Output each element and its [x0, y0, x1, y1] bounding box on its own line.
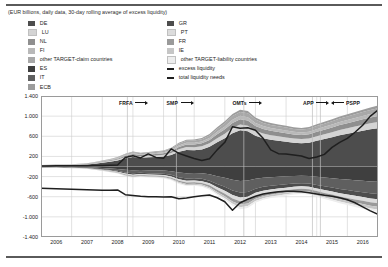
legend-swatch-total-liquidity-needs-icon	[167, 77, 174, 79]
chart-figure: (EUR billions, daily data, 30-day rollin…	[0, 0, 388, 267]
arrow-shaft	[181, 102, 191, 103]
legend-item: other TARGET-liability countries	[167, 55, 357, 64]
legend-swatch-de-icon	[28, 21, 35, 27]
arrow-right-icon	[316, 101, 329, 105]
legend-item: total liquidity needs	[167, 74, 357, 83]
legend-label: ES	[40, 66, 47, 71]
legend-item: other TARGET-claim countries	[28, 55, 178, 64]
annotation-label: SMP	[167, 100, 178, 106]
top-rule	[6, 4, 382, 6]
legend-item: GR	[167, 19, 357, 28]
y-axis-tick-label: 1.000	[1, 113, 38, 119]
legend-item: PT	[167, 28, 357, 37]
arrow-shaft	[135, 102, 145, 103]
annotation-label: APP	[303, 100, 314, 106]
arrow-head	[331, 101, 334, 105]
legend-item: FI	[28, 46, 178, 55]
annotation-pspp: PSPP	[331, 97, 361, 108]
legend-swatch-ecb-icon	[28, 84, 35, 90]
legend-swatch-fr-icon	[167, 39, 174, 45]
x-axis-tick-label: 2008	[112, 239, 124, 245]
arrow-shaft	[333, 102, 343, 103]
x-axis-tick-label: 2016	[357, 239, 369, 245]
legend-column-left: DELUNLFIother TARGET-claim countriesESIT…	[28, 19, 178, 92]
arrow-head	[326, 101, 329, 105]
legend-swatch-other-claim-icon	[28, 57, 35, 63]
legend-item: IE	[167, 46, 357, 55]
legend-label: other TARGET-liability countries	[181, 57, 257, 62]
x-axis-tick-label: 2015	[326, 239, 338, 245]
legend-label: IT	[40, 75, 45, 80]
legend-swatch-excess-liquidity-icon	[167, 68, 174, 70]
legend-label: other TARGET-claim countries	[40, 57, 113, 62]
arrow-right-icon	[249, 101, 262, 105]
legend-column-right: GRPTFRIEother TARGET-liability countries…	[167, 19, 357, 83]
legend-item: excess liquidity	[167, 64, 357, 73]
x-axis-tick-label: 2006	[50, 239, 62, 245]
legend-label: FI	[40, 48, 45, 53]
annotation-label: PSPP	[346, 100, 360, 106]
legend-label: NL	[40, 39, 47, 44]
y-axis-tick-label: -600	[1, 194, 38, 200]
chart-legend: DELUNLFIother TARGET-claim countriesESIT…	[28, 19, 358, 91]
legend-swatch-pt-icon	[167, 29, 176, 37]
legend-swatch-other-liability-icon	[167, 56, 176, 64]
annotation-omts: OMTs	[232, 97, 262, 108]
arrow-shaft	[316, 102, 326, 103]
bottom-rule	[6, 256, 382, 258]
legend-label: LU	[42, 30, 49, 35]
y-axis-tick-label: -200	[1, 174, 38, 180]
legend-label: GR	[179, 21, 187, 26]
chart-canvas	[41, 96, 378, 237]
x-axis-tick-label: 2010	[173, 239, 185, 245]
legend-label: total liquidity needs	[179, 75, 225, 80]
annotation-app: APP	[303, 97, 329, 108]
legend-label: PT	[181, 30, 188, 35]
annotation-frfa: FRFA	[119, 97, 148, 108]
arrow-right-icon	[135, 101, 148, 105]
x-axis-labels: 2006200720082009201020112012201320142015…	[41, 239, 378, 251]
legend-label: DE	[40, 21, 48, 26]
arrow-right-icon	[181, 101, 194, 105]
annotation-label: FRFA	[119, 100, 133, 106]
legend-label: IE	[179, 48, 184, 53]
x-axis-tick-label: 2007	[81, 239, 93, 245]
arrow-shaft	[249, 102, 259, 103]
legend-item: IT	[28, 74, 178, 83]
arrow-head	[145, 101, 148, 105]
x-axis-tick-label: 2013	[265, 239, 277, 245]
arrow-head	[191, 101, 194, 105]
legend-label: ECB	[40, 85, 51, 90]
annotation-smp: SMP	[167, 97, 194, 108]
y-axis-tick-label: -1.000	[1, 214, 38, 220]
y-axis-labels: 1.4001.000600200-200-600-1.000-1.400	[0, 96, 38, 237]
y-axis-tick-label: 200	[1, 153, 38, 159]
y-axis-tick-label: 1.400	[1, 93, 38, 99]
y-axis-tick-label: -1.400	[1, 234, 38, 240]
x-axis-tick-label: 2014	[295, 239, 307, 245]
arrow-head	[259, 101, 262, 105]
annotation-label: OMTs	[232, 100, 246, 106]
legend-item: DE	[28, 19, 178, 28]
legend-swatch-lu-icon	[28, 29, 37, 37]
legend-label: FR	[179, 39, 186, 44]
legend-swatch-fi-icon	[28, 48, 35, 54]
plot-area	[41, 96, 378, 237]
legend-item: ES	[28, 64, 178, 73]
legend-item: LU	[28, 28, 178, 37]
legend-item: ECB	[28, 83, 178, 92]
legend-swatch-gr-icon	[167, 21, 174, 27]
x-axis-tick-label: 2012	[234, 239, 246, 245]
legend-swatch-es-icon	[28, 66, 35, 72]
legend-label: excess liquidity	[179, 66, 215, 71]
chart-subtitle: (EUR billions, daily data, 30-day rollin…	[8, 9, 167, 15]
legend-swatch-ie-icon	[167, 48, 174, 54]
legend-item: FR	[167, 37, 357, 46]
policy-annotations: FRFASMPOMTsAPPPSPP	[41, 97, 378, 110]
y-axis-tick-label: 600	[1, 133, 38, 139]
x-axis-tick-label: 2009	[142, 239, 154, 245]
legend-swatch-it-icon	[28, 75, 35, 81]
arrow-left-icon	[331, 101, 344, 105]
legend-item: NL	[28, 37, 178, 46]
x-axis-tick-label: 2011	[204, 239, 216, 245]
